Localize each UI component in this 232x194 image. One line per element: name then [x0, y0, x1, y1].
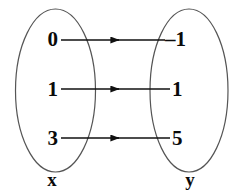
range-value-1: 1 — [172, 79, 216, 100]
range-value-0: –1 — [165, 29, 209, 50]
range-label: y — [174, 170, 206, 189]
domain-value-1: 1 — [26, 79, 58, 100]
domain-label: x — [36, 170, 68, 189]
domain-value-0: 0 — [26, 29, 58, 50]
domain-value-2: 3 — [26, 128, 58, 149]
mapping-diagram: 0 1 3 –1 1 5 x y — [0, 0, 232, 194]
range-value-2: 5 — [172, 128, 216, 149]
